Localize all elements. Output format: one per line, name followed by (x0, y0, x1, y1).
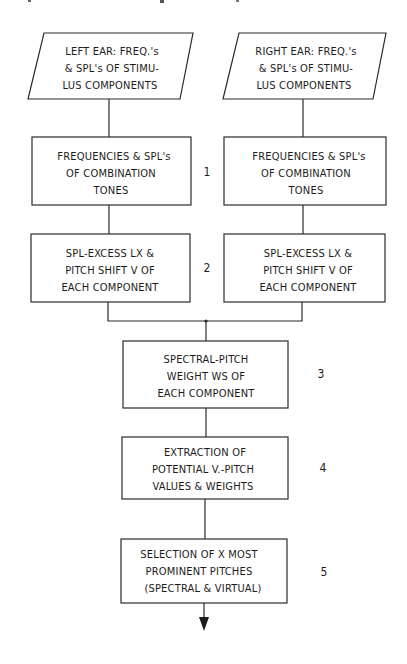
stage3-node: SPECTRAL-PITCH WEIGHT WS OF EACH COMPONE… (123, 341, 288, 408)
stage1-number-label: 1 (203, 165, 210, 179)
stage5-node: SELECTION OF X MOST PROMINENT PITCHES (S… (121, 539, 287, 603)
stage1-right-line-1: FREQUENCIES & SPL's (252, 150, 365, 163)
left-ear-line-3: LUS COMPONENTS (63, 79, 158, 92)
stage2-right-node: SPL-EXCESS LX & PITCH SHIFT V OF EACH CO… (224, 234, 385, 302)
left-ear-input-node: LEFT EAR: FREQ.'s & SPL's OF STIMU- LUS … (28, 33, 193, 99)
stage3-line-2: WEIGHT WS OF (167, 370, 245, 383)
cropped-caption-remnant (28, 0, 239, 3)
stage2-right-line-2: PITCH SHIFT V OF (263, 264, 353, 277)
merge-connector (108, 302, 302, 321)
stage1-right-line-2: OF COMBINATION (261, 167, 351, 180)
left-ear-line-2: & SPL's OF STIMU- (65, 62, 159, 75)
stage2-number-label: 2 (203, 261, 210, 275)
down-arrow-icon (199, 603, 209, 631)
stage4-line-3: VALUES & WEIGHTS (152, 480, 253, 493)
stage2-left-line-1: SPL-EXCESS LX & (66, 247, 154, 260)
right-ear-input-node: RIGHT EAR: FREQ.'s & SPL's OF STIMU- LUS… (223, 33, 386, 99)
stage4-line-2: POTENTIAL V.-PITCH (152, 463, 254, 476)
stage5-number-label: 5 (320, 565, 327, 579)
stage3-line-1: SPECTRAL-PITCH (164, 353, 249, 366)
left-ear-line-1: LEFT EAR: FREQ.'s (65, 45, 159, 58)
stage3-number-label: 3 (317, 367, 324, 381)
stage4-node: EXTRACTION OF POTENTIAL V.-PITCH VALUES … (122, 437, 288, 499)
stage1-left-line-2: OF COMBINATION (66, 167, 156, 180)
right-ear-line-2: & SPL's OF STIMU- (259, 62, 353, 75)
stage2-left-line-2: PITCH SHIFT V OF (65, 264, 155, 277)
stage2-right-line-3: EACH COMPONENT (259, 281, 357, 294)
stage1-left-node: FREQUENCIES & SPL's OF COMBINATION TONES (32, 137, 191, 205)
stage3-line-3: EACH COMPONENT (157, 387, 255, 400)
stage2-left-line-3: EACH COMPONENT (61, 281, 159, 294)
stage2-left-node: SPL-EXCESS LX & PITCH SHIFT V OF EACH CO… (31, 234, 190, 302)
stage2-right-line-1: SPL-EXCESS LX & (264, 247, 352, 260)
stage4-line-1: EXTRACTION OF (164, 446, 246, 459)
stage4-number-label: 4 (319, 461, 326, 475)
stage5-line-1: SELECTION OF X MOST (140, 548, 258, 561)
stage1-right-line-3: TONES (288, 184, 324, 197)
stage1-right-node: FREQUENCIES & SPL's OF COMBINATION TONES (224, 137, 386, 205)
stage1-left-line-3: TONES (93, 184, 129, 197)
right-ear-line-3: LUS COMPONENTS (257, 79, 352, 92)
stage1-left-line-1: FREQUENCIES & SPL's (57, 150, 170, 163)
right-ear-line-1: RIGHT EAR: FREQ.'s (255, 45, 356, 58)
pitch-extraction-flowchart: LEFT EAR: FREQ.'s & SPL's OF STIMU- LUS … (0, 0, 407, 664)
stage5-line-3: (SPECTRAL & VIRTUAL) (144, 582, 261, 595)
stage5-line-2: PROMINENT PITCHES (146, 565, 253, 578)
